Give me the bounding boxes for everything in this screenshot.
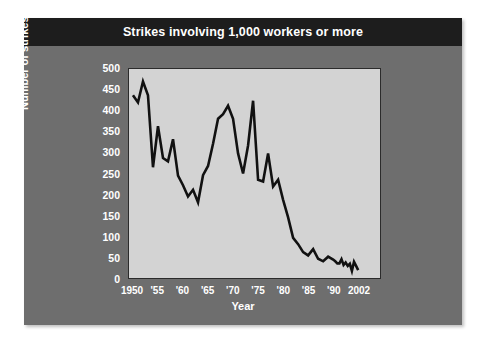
x-tick-label: '75 <box>251 286 265 296</box>
y-tick-label: 200 <box>86 190 120 200</box>
plot-area <box>128 68 381 279</box>
y-tick-label: 150 <box>86 211 120 221</box>
x-tick-label: 1950 <box>121 286 143 296</box>
x-tick-label: '80 <box>277 286 291 296</box>
y-axis-label: Number of strikes <box>18 16 30 110</box>
x-tick-label: '70 <box>226 286 240 296</box>
y-tick-label: 50 <box>86 253 120 263</box>
screenshot-root: Strikes involving 1,000 workers or more … <box>0 0 486 349</box>
y-tick-label: 300 <box>86 147 120 157</box>
x-tick-label: '90 <box>327 286 341 296</box>
y-tick-label: 450 <box>86 84 120 94</box>
strikes-line-chart <box>129 69 380 278</box>
x-tick-label: '55 <box>150 286 164 296</box>
y-tick-label: 350 <box>86 126 120 136</box>
y-tick-label: 400 <box>86 105 120 115</box>
x-axis-label: Year <box>24 300 462 312</box>
y-tick-label: 500 <box>86 63 120 73</box>
x-tick-label: '60 <box>176 286 190 296</box>
chart-card: Strikes involving 1,000 workers or more … <box>24 18 462 325</box>
x-tick-label: '65 <box>201 286 215 296</box>
y-tick-label: 0 <box>86 274 120 284</box>
series-strikes <box>133 82 358 271</box>
x-tick-label: 2002 <box>348 286 370 296</box>
x-tick-label: '85 <box>302 286 316 296</box>
y-tick-label: 250 <box>86 169 120 179</box>
y-tick-label: 100 <box>86 232 120 242</box>
